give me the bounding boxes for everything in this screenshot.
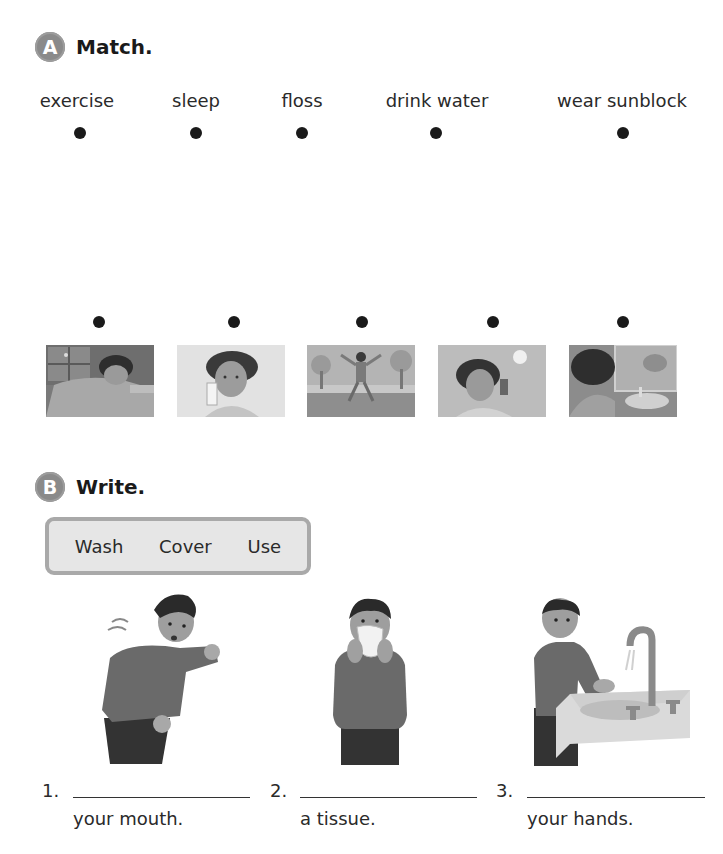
match-dot-top-1[interactable] [74, 127, 86, 139]
match-dot-bottom-1[interactable] [93, 316, 105, 328]
picture-girl-flossing [569, 345, 677, 417]
match-word-wear-sunblock: wear sunblock [557, 90, 687, 111]
word-bank: Wash Cover Use [45, 517, 311, 575]
word-bank-cover: Cover [159, 536, 212, 557]
match-dot-top-3[interactable] [296, 127, 308, 139]
match-word-exercise: exercise [40, 90, 114, 111]
section-b-badge: B [35, 472, 65, 502]
match-word-sleep: sleep [172, 90, 220, 111]
item-1-number: 1. [42, 780, 59, 801]
picture-girl-applying-sunblock [438, 345, 546, 417]
picture-girl-exercising [307, 345, 415, 417]
picture-girl-drinking-water [177, 345, 285, 417]
picture-boy-coughing [90, 588, 230, 764]
item-1-suffix: your mouth. [73, 808, 183, 829]
match-dot-bottom-4[interactable] [487, 316, 499, 328]
match-dot-top-4[interactable] [430, 127, 442, 139]
section-b-title: Write. [76, 475, 145, 499]
match-dot-bottom-3[interactable] [356, 316, 368, 328]
item-2-blank[interactable] [300, 797, 477, 798]
word-bank-wash: Wash [75, 536, 123, 557]
picture-boy-using-tissue [325, 595, 415, 765]
item-3-blank[interactable] [527, 797, 705, 798]
match-word-floss: floss [281, 90, 322, 111]
match-dot-top-5[interactable] [617, 127, 629, 139]
item-2-suffix: a tissue. [300, 808, 376, 829]
section-a-title: Match. [76, 35, 153, 59]
item-1-blank[interactable] [73, 797, 250, 798]
section-a-badge: A [35, 32, 65, 62]
match-dot-bottom-5[interactable] [617, 316, 629, 328]
item-3-number: 3. [496, 780, 513, 801]
match-dot-top-2[interactable] [190, 127, 202, 139]
word-bank-use: Use [247, 536, 281, 557]
picture-girl-sleeping [46, 345, 154, 417]
item-3-suffix: your hands. [527, 808, 634, 829]
item-2-number: 2. [270, 780, 287, 801]
picture-boy-washing-hands [530, 598, 695, 766]
match-word-drink-water: drink water [386, 90, 489, 111]
match-dot-bottom-2[interactable] [228, 316, 240, 328]
